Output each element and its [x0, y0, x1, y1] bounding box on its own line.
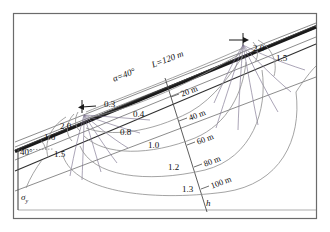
contour-label-0-4: 0.4: [133, 110, 144, 119]
stress-contour-figure: α=40° L=120 m 40° 0.3 0.4 0.8 1.0 1.2 1.…: [0, 0, 330, 232]
contour-label-1-0: 1.0: [148, 141, 159, 150]
contour-label-1-5-left: 1.5: [54, 150, 65, 159]
diagram-canvas: [0, 0, 330, 232]
contour-label-1-5-right: 1.5: [276, 54, 287, 63]
contour-label-1-6-left: 1.6: [44, 133, 55, 142]
contour-label-1-2: 1.2: [168, 163, 179, 172]
contour-label-0-3: 0.3: [104, 100, 115, 109]
contour-label-2-0-right: 2.0: [253, 44, 264, 53]
contour-label-2-0-left: 2.0: [60, 122, 71, 131]
angle-arc-label: 40°: [20, 148, 33, 157]
stress-axis-subscript: y: [25, 198, 28, 204]
stress-axis-label: σy: [21, 193, 28, 204]
contour-label-1-3: 1.3: [182, 185, 193, 194]
depth-axis-label: h: [206, 199, 211, 208]
contour-label-0-8: 0.8: [120, 128, 131, 137]
